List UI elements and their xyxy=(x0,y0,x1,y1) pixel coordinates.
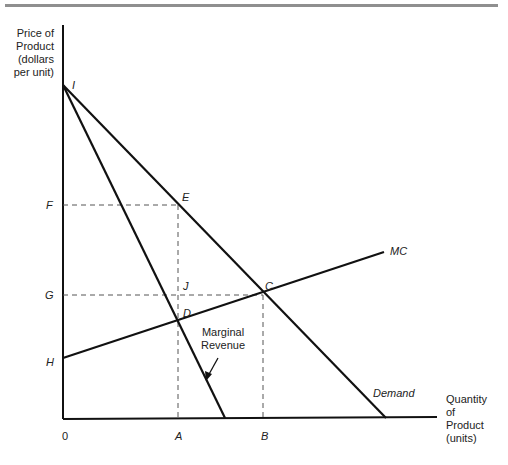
tick-b: B xyxy=(261,430,268,443)
point-c: C xyxy=(265,280,273,293)
mc-label: MC xyxy=(390,245,407,258)
tick-h: H xyxy=(46,356,54,369)
demand-label: Demand xyxy=(373,387,415,400)
mr-arrowhead xyxy=(205,371,212,381)
tick-a: A xyxy=(175,430,182,443)
origin-label: 0 xyxy=(62,430,68,443)
demand-curve xyxy=(63,85,386,418)
marginal-revenue-label: Marginal Revenue xyxy=(198,326,248,352)
marginal-revenue-curve xyxy=(63,85,225,418)
x-axis xyxy=(63,417,437,419)
point-e: E xyxy=(182,191,189,204)
x-axis-label: Quantity of Product (units) xyxy=(446,393,487,445)
point-i: I xyxy=(72,79,75,92)
point-j: J xyxy=(183,280,189,293)
point-d: D xyxy=(183,307,191,320)
monopoly-diagram xyxy=(0,0,508,465)
tick-f: F xyxy=(46,199,53,212)
tick-g: G xyxy=(45,289,54,302)
y-axis-label: Price of Product (dollars per unit) xyxy=(6,27,54,79)
